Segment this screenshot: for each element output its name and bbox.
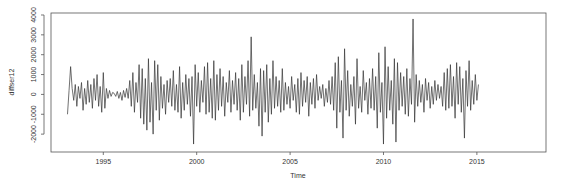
y-tick-label: 2000 [30, 47, 37, 63]
y-tick-label: 0 [30, 92, 37, 96]
x-axis-title: Time [290, 172, 305, 179]
x-tick-label: 1995 [96, 158, 112, 165]
x-tick-label: 2005 [282, 158, 298, 165]
y-tick-label: -1000 [30, 105, 37, 123]
x-tick-label: 2015 [469, 158, 485, 165]
x-tick-label: 2010 [376, 158, 392, 165]
x-tick-label: 2000 [189, 158, 205, 165]
y-axis: -2000-100001000200030004000 [30, 7, 44, 143]
plot-frame [51, 13, 546, 152]
y-tick-label: -2000 [30, 125, 37, 143]
y-tick-label: 1000 [30, 67, 37, 83]
y-tick-label: 4000 [30, 7, 37, 23]
y-tick-label: 3000 [30, 27, 37, 43]
time-series-chart: -2000-100001000200030004000 199520002005… [0, 0, 561, 186]
y-axis-title: diffser12 [8, 69, 15, 96]
series-line [67, 19, 478, 144]
x-axis: 19952000200520102015 [96, 152, 485, 165]
